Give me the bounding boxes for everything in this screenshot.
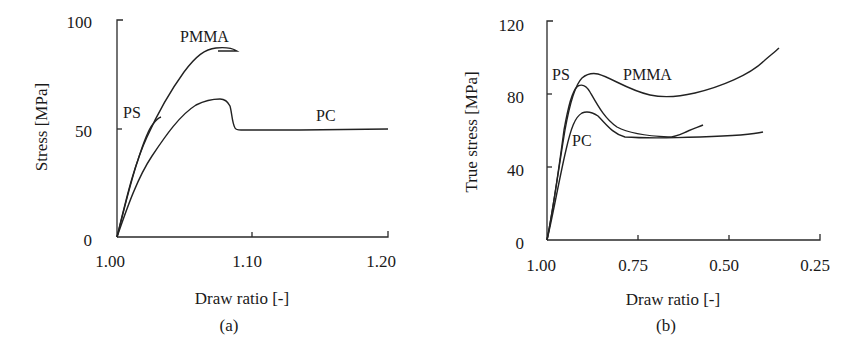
panel-a-label-pc: PC: [316, 107, 336, 124]
panel-b-ps-curve: [547, 85, 703, 240]
panel-a-x-tick-label: 1.20: [366, 252, 396, 271]
panel-a-pmma-curve: [117, 48, 237, 237]
panel-b-label-ps: PS: [552, 66, 570, 83]
panel-b-x-axis: [547, 234, 820, 240]
panel-a-x-tick-label: 1.10: [232, 252, 262, 271]
panel-b-label-pc: PC: [572, 132, 592, 149]
panel-b-y-axis-title: True stress [MPa]: [462, 71, 481, 192]
panel-a-y-tick-label: 0: [84, 231, 93, 250]
panel-b-caption: (b): [656, 316, 676, 335]
panel-b-x-tick-label: 0.50: [709, 256, 739, 275]
figure: 100 50 0 1.00 1.10 1.20 Draw ratio [-] S…: [0, 0, 858, 357]
panel-b-x-tick-label: 1.00: [526, 256, 556, 275]
panel-b-x-tick-label: 0.75: [618, 256, 648, 275]
panel-a-x-axis-title: Draw ratio [-]: [195, 289, 289, 308]
panel-b-y-tick-label: 40: [507, 161, 524, 180]
panel-b-y-tick-label: 0: [516, 234, 525, 253]
panel-a-label-ps: PS: [123, 104, 141, 121]
panel-b-x-tick-label: 0.25: [800, 256, 830, 275]
panel-a-label-pmma: PMMA: [180, 28, 229, 45]
panel-a-y-tick-label: 100: [67, 13, 93, 32]
panel-b-label-pmma: PMMA: [623, 66, 672, 83]
panel-b-y-tick-label: 80: [507, 88, 524, 107]
panel-a-y-tick-label: 50: [75, 122, 92, 141]
panel-b-x-axis-title: Draw ratio [-]: [626, 290, 720, 309]
panel-a-x-tick-label: 1.00: [95, 252, 125, 271]
panel-a-caption: (a): [220, 316, 239, 335]
panel-a: 100 50 0 1.00 1.10 1.20 Draw ratio [-] S…: [32, 13, 396, 335]
panel-b-y-tick-label: 120: [499, 16, 525, 35]
panel-a-y-axis-title: Stress [MPa]: [32, 83, 51, 171]
panel-b: 120 80 40 0 1.00 0.75 0.50 0.25 Draw rat…: [462, 16, 830, 335]
